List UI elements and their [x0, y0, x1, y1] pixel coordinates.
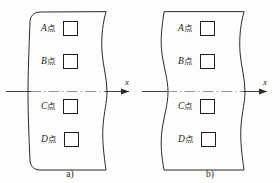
point-label-b-D: D点	[178, 135, 194, 145]
point-checkbox-b-D[interactable]	[201, 132, 216, 147]
axis-label-b-text: x	[263, 77, 267, 87]
point-label-a-A: A点	[41, 24, 56, 34]
panel-a: x A点 B点 C点 D点 a)	[0, 0, 140, 183]
point-label-b-D-latin: D	[178, 134, 185, 144]
point-row-a-D: D点	[41, 132, 79, 147]
point-row-b-D: D点	[178, 132, 216, 147]
point-label-a-D-latin: D	[41, 134, 48, 144]
point-checkbox-a-B[interactable]	[63, 54, 78, 69]
point-checkbox-a-D[interactable]	[64, 132, 79, 147]
axis-label-b: x	[263, 78, 267, 87]
panel-caption-b: b)	[140, 170, 280, 180]
axis-label-a-text: x	[125, 77, 129, 87]
point-checkbox-b-A[interactable]	[200, 21, 215, 36]
point-label-a-B-cjk: 点	[47, 56, 56, 66]
point-row-b-C: C点	[178, 99, 215, 114]
point-label-b-A-cjk: 点	[184, 23, 193, 33]
axis-label-a: x	[125, 78, 129, 87]
axis-arrow-head-b	[259, 89, 267, 95]
panel-caption-a: a)	[0, 170, 140, 180]
axis-arrow-head-a	[121, 89, 129, 95]
panel-b: x A点 B点 C点 D点 b)	[140, 0, 280, 183]
point-label-b-B: B点	[178, 57, 193, 67]
point-checkbox-a-A[interactable]	[63, 21, 78, 36]
point-checkbox-a-C[interactable]	[63, 99, 78, 114]
point-label-b-B-cjk: 点	[184, 56, 193, 66]
point-checkbox-b-B[interactable]	[200, 54, 215, 69]
point-label-b-D-cjk: 点	[185, 134, 194, 144]
point-row-b-B: B点	[178, 54, 215, 69]
point-row-a-A: A点	[41, 21, 78, 36]
point-label-a-C-cjk: 点	[47, 101, 56, 111]
point-label-a-B: B点	[41, 57, 56, 67]
point-row-b-A: A点	[178, 21, 215, 36]
point-row-a-B: B点	[41, 54, 78, 69]
point-row-a-C: C点	[41, 99, 78, 114]
point-label-a-D-cjk: 点	[48, 134, 57, 144]
point-label-b-A: A点	[178, 24, 193, 34]
point-label-b-C: C点	[178, 102, 193, 112]
point-label-a-D: D点	[41, 135, 57, 145]
point-checkbox-b-C[interactable]	[200, 99, 215, 114]
point-label-a-C: C点	[41, 102, 56, 112]
figure-root: x A点 B点 C点 D点 a) x	[0, 0, 280, 183]
point-label-a-A-cjk: 点	[47, 23, 56, 33]
point-label-b-C-cjk: 点	[184, 101, 193, 111]
